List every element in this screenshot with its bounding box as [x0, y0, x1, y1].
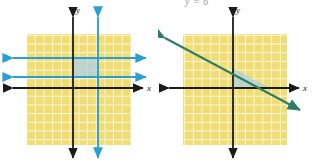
x-axis-label-right: x — [302, 83, 307, 93]
figure-canvas: y = 6 — [0, 0, 316, 162]
right-graph: x y — [158, 0, 316, 162]
grid-background-right — [183, 34, 287, 145]
grid-background-left — [27, 34, 131, 145]
left-graph: x y — [0, 0, 158, 162]
left-graph-svg: x y — [0, 0, 158, 162]
x-axis-label-left: x — [146, 83, 151, 93]
solution-region-left — [73, 58, 98, 77]
right-graph-svg: x y — [158, 0, 316, 162]
y-axis-label-right: y — [235, 5, 240, 15]
y-axis-label-left: y — [75, 5, 80, 15]
